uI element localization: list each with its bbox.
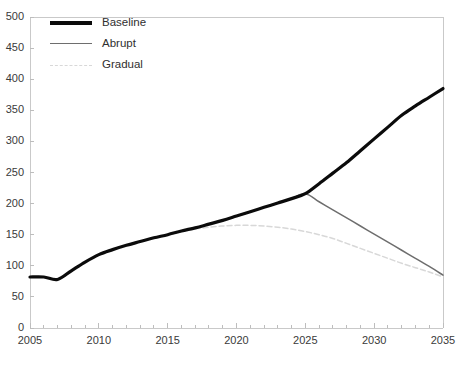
x-tick-label: 2035 [422, 335, 460, 346]
series-line-baseline [30, 89, 443, 280]
x-tick-label: 2025 [284, 335, 326, 346]
y-tick-label: 400 [6, 73, 24, 84]
legend-swatch-abrupt [48, 38, 94, 50]
legend-swatch-baseline [48, 17, 94, 29]
legend-label-abrupt: Abrupt [94, 38, 136, 50]
chart-legend: Baseline Abrupt Gradual [48, 12, 178, 75]
x-tick-label: 2020 [216, 335, 258, 346]
y-tick-label: 300 [6, 135, 24, 146]
y-tick-label: 200 [6, 198, 24, 209]
y-tick-label: 350 [6, 104, 24, 115]
legend-swatch-gradual [48, 59, 94, 71]
x-tick-label: 2015 [147, 335, 189, 346]
legend-label-gradual: Gradual [94, 59, 143, 71]
y-tick-label: 250 [6, 167, 24, 178]
legend-label-baseline: Baseline [94, 17, 146, 29]
x-tick-label: 2030 [353, 335, 395, 346]
legend-item-gradual: Gradual [48, 54, 178, 75]
series-layer [30, 89, 443, 280]
y-tick-label: 0 [18, 322, 24, 333]
legend-item-abrupt: Abrupt [48, 33, 178, 54]
legend-item-baseline: Baseline [48, 12, 178, 33]
series-line-abrupt [30, 194, 443, 280]
y-tick-label: 500 [6, 11, 24, 22]
series-line-gradual [30, 225, 443, 279]
x-tick-label: 2005 [9, 335, 51, 346]
y-tick-label: 450 [6, 42, 24, 53]
x-tick-label: 2010 [78, 335, 120, 346]
y-tick-label: 150 [6, 229, 24, 240]
y-tick-label: 100 [6, 260, 24, 271]
y-tick-label: 50 [12, 291, 24, 302]
